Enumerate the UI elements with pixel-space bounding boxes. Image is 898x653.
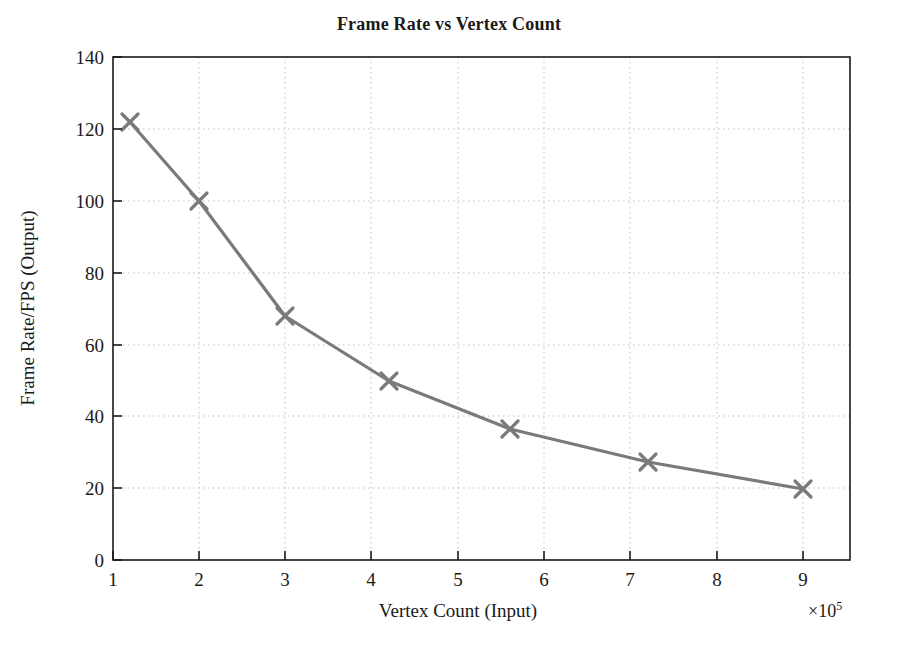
data-point-marker (277, 308, 293, 324)
x-tick-label: 1 (108, 569, 118, 590)
x-tick-label: 7 (625, 569, 635, 590)
x-tick-marks (113, 551, 803, 560)
y-tick-label: 120 (76, 119, 105, 140)
x-axis-multiplier-base: ×10 (808, 601, 836, 621)
grid-horizontal (113, 129, 850, 488)
chart-figure: Frame Rate vs Vertex Count (0, 0, 898, 653)
data-line-frame-rate (130, 122, 803, 489)
x-tick-label: 3 (280, 569, 290, 590)
y-tick-label: 40 (85, 406, 104, 427)
y-tick-label: 100 (76, 191, 105, 212)
grid-vertical (199, 57, 803, 560)
y-axis-label: Frame Rate/FPS (Output) (17, 210, 39, 405)
x-axis-label: Vertex Count (Input) (379, 600, 537, 622)
y-tick-label: 80 (85, 263, 104, 284)
y-tick-label: 60 (85, 335, 104, 356)
y-tick-label: 140 (76, 47, 105, 68)
x-axis-multiplier: ×105 (808, 599, 842, 621)
x-tick-label: 8 (712, 569, 722, 590)
data-point-marker (381, 373, 397, 389)
plot-area: 0 20 40 60 80 100 120 140 1 2 3 4 5 6 7 … (0, 0, 898, 653)
x-axis-multiplier-exponent: 5 (836, 599, 842, 613)
x-tick-label: 6 (539, 569, 549, 590)
y-tick-labels: 0 20 40 60 80 100 120 140 (76, 47, 105, 571)
y-tick-label: 20 (85, 478, 104, 499)
x-tick-label: 4 (366, 569, 376, 590)
y-tick-marks (113, 57, 122, 560)
x-tick-labels: 1 2 3 4 5 6 7 8 9 (108, 569, 808, 590)
data-markers (122, 114, 811, 497)
data-point-marker (122, 114, 138, 130)
x-tick-label: 9 (798, 569, 808, 590)
x-tick-label: 5 (453, 569, 463, 590)
plot-frame (113, 57, 850, 560)
y-tick-label: 0 (95, 550, 105, 571)
x-tick-label: 2 (194, 569, 204, 590)
